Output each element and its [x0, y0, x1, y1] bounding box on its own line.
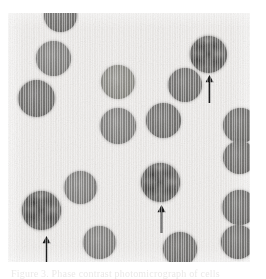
cell-upper-left	[36, 41, 71, 76]
photomicrograph-plate	[8, 13, 250, 262]
cell-top-edge-clipped	[44, 13, 77, 32]
cell-bottom-left	[83, 226, 116, 259]
cell-mid-left	[18, 80, 55, 117]
cell-right-edge-3	[222, 190, 250, 225]
cell-arrow-upper-right	[190, 36, 227, 73]
cell-arrow-center	[141, 163, 180, 202]
cell-center-left	[100, 108, 136, 144]
cell-right-edge-4	[221, 225, 250, 259]
figure-page: Figure 3. Phase contrast photomicrograph…	[0, 0, 266, 279]
figure-caption-text: Figure 3. Phase contrast photomicrograph…	[11, 269, 255, 279]
cell-right-edge-2	[223, 141, 250, 174]
arrow-center	[156, 205, 167, 233]
figure-caption-clipped: Figure 3. Phase contrast photomicrograph…	[11, 269, 255, 279]
cell-upper-right-mid	[168, 68, 202, 102]
arrow-upper-right	[204, 75, 215, 103]
cell-center	[146, 103, 181, 138]
cell-arrow-lower-left	[22, 191, 61, 230]
arrow-lower-left	[41, 236, 52, 262]
cell-right-edge-1	[223, 108, 250, 143]
cell-lower-mid-left	[64, 171, 97, 204]
cell-upper-center	[101, 65, 135, 99]
cell-bottom-center	[163, 232, 197, 262]
